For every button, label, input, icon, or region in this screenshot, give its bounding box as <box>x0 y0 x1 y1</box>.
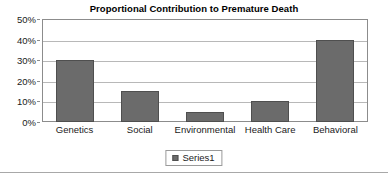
chart-legend: Series1 <box>165 150 222 166</box>
x-tick-label: Behavioral <box>303 124 368 136</box>
x-axis: GeneticsSocialEnvironmentalHealth CareBe… <box>42 124 368 152</box>
y-tick-mark <box>37 101 40 102</box>
legend-item-label: Series1 <box>182 153 214 163</box>
y-tick-label: 50% <box>17 14 36 25</box>
y-tick-mark <box>37 40 40 41</box>
y-tick-label: 40% <box>17 34 36 45</box>
x-tick-label: Environmental <box>172 124 237 136</box>
gridline <box>43 102 367 103</box>
y-axis: 0%10%20%30%40%50% <box>0 19 40 122</box>
gridline <box>43 82 367 83</box>
y-tick-label: 0% <box>22 117 36 128</box>
y-tick-mark <box>37 81 40 82</box>
plot-area <box>42 19 368 122</box>
bottom-divider <box>0 172 388 173</box>
y-tick-mark <box>37 19 40 20</box>
y-tick-mark <box>37 60 40 61</box>
x-tick-label: Social <box>107 124 172 136</box>
y-tick-label: 30% <box>17 55 36 66</box>
series1-swatch-icon <box>172 155 178 161</box>
y-tick-label: 10% <box>17 96 36 107</box>
bar-chart-figure: Proportional Contribution to Premature D… <box>0 0 388 181</box>
x-tick-label: Genetics <box>42 124 107 136</box>
gridline <box>43 61 367 62</box>
y-tick-mark <box>37 122 40 123</box>
y-tick-label: 20% <box>17 75 36 86</box>
chart-title: Proportional Contribution to Premature D… <box>0 3 388 14</box>
x-tick-label: Health Care <box>238 124 303 136</box>
gridline <box>43 41 367 42</box>
